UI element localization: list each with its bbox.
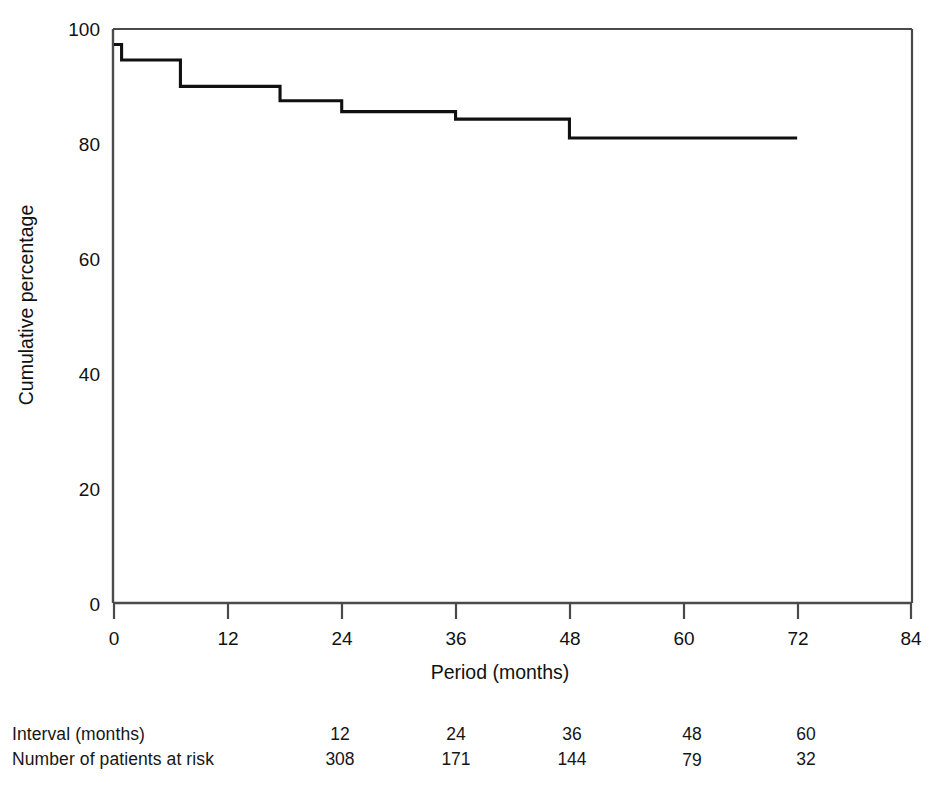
y-axis-tick-labels: 100 80 60 40 20 0 [68, 19, 100, 615]
x-axis-tick-labels: 0 12 24 36 48 60 72 84 [109, 628, 922, 649]
y-tick-label-0: 0 [89, 594, 100, 615]
interval-cell-4: 60 [774, 722, 838, 747]
at-risk-cell-3: 79 [660, 748, 724, 773]
at-risk-cell-1: 171 [424, 747, 488, 772]
numbers-at-risk-table: Interval (months) 12 24 36 48 60 Number … [12, 722, 934, 772]
y-tick-label-60: 60 [79, 249, 100, 270]
at-risk-cell-0: 308 [308, 747, 372, 772]
kaplan-meier-figure: 0 12 24 36 48 60 72 84 100 80 60 40 20 0 [0, 0, 946, 803]
interval-cell-0: 12 [308, 722, 372, 747]
interval-cell-3: 48 [660, 722, 724, 747]
interval-cell-2: 36 [540, 722, 604, 747]
at-risk-cell-2: 144 [540, 747, 604, 772]
x-tick-label-72: 72 [787, 628, 808, 649]
table-row-at-risk: Number of patients at risk 308 171 144 7… [12, 747, 934, 772]
at-risk-cell-4: 32 [774, 747, 838, 772]
row-label-interval: Interval (months) [12, 722, 145, 747]
row-label-at-risk: Number of patients at risk [12, 747, 214, 772]
x-axis-title: Period (months) [431, 661, 570, 683]
survival-step-curve [114, 45, 797, 139]
plot-frame [113, 29, 912, 603]
x-tick-label-24: 24 [331, 628, 353, 649]
x-axis-ticks [114, 603, 911, 619]
x-tick-label-60: 60 [673, 628, 694, 649]
x-tick-label-12: 12 [217, 628, 238, 649]
x-tick-label-36: 36 [445, 628, 466, 649]
y-tick-label-100: 100 [68, 19, 100, 40]
interval-cell-1: 24 [424, 722, 488, 747]
y-tick-label-80: 80 [79, 134, 100, 155]
chart-area: 0 12 24 36 48 60 72 84 100 80 60 40 20 0 [0, 0, 946, 700]
y-tick-label-40: 40 [79, 364, 100, 385]
x-tick-label-48: 48 [559, 628, 580, 649]
x-tick-label-84: 84 [900, 628, 922, 649]
survival-curve-plot: 0 12 24 36 48 60 72 84 100 80 60 40 20 0 [0, 0, 946, 700]
table-row-intervals: Interval (months) 12 24 36 48 60 [12, 722, 934, 747]
x-tick-label-0: 0 [109, 628, 120, 649]
y-axis-title: Cumulative percentage [15, 205, 37, 406]
y-tick-label-20: 20 [79, 479, 100, 500]
